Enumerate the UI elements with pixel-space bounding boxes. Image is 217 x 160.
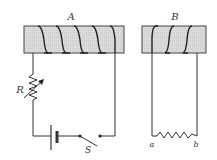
coil-b-label: B: [170, 11, 178, 22]
circuit-diagram: A B R S a b: [0, 0, 217, 160]
variable-resistor-label: R: [15, 84, 24, 95]
coil-a-core: [24, 26, 124, 53]
coil-a-label: A: [66, 11, 74, 22]
switch-contact-left: [78, 134, 81, 137]
coil-a: A: [24, 11, 124, 53]
secondary-circuit: [152, 53, 197, 138]
coil-b: B: [142, 11, 206, 53]
terminal-b-label: b: [193, 140, 198, 149]
switch-contact-right: [98, 134, 101, 137]
terminal-a-label: a: [150, 140, 155, 149]
switch-label: S: [85, 145, 91, 155]
load-resistor: [157, 132, 197, 138]
